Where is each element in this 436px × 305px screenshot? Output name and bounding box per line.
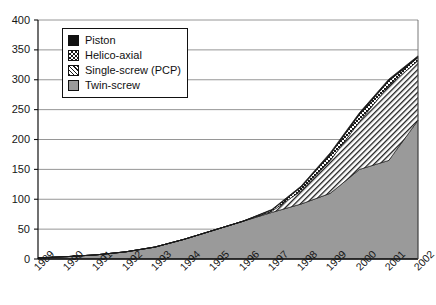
legend-item-helico-axial: Helico-axial (68, 48, 181, 63)
legend-label-twin-screw: Twin-screw (85, 80, 140, 91)
y-tick-label: 50 (0, 224, 30, 235)
y-tick-label: 150 (0, 164, 30, 175)
legend-label-piston: Piston (85, 35, 116, 46)
y-tick-label: 250 (0, 104, 30, 115)
legend-swatch-twin-screw-icon (68, 80, 79, 91)
legend-swatch-single-screw-icon (68, 65, 79, 76)
legend-label-single-screw: Single-screw (PCP) (85, 65, 181, 76)
legend-swatch-piston-icon (68, 35, 79, 46)
legend-item-piston: Piston (68, 33, 181, 48)
legend-item-twin-screw: Twin-screw (68, 78, 181, 93)
y-tick-label: 400 (0, 15, 30, 26)
y-tick-label: 300 (0, 74, 30, 85)
legend-swatch-helico-axial-icon (68, 50, 79, 61)
legend-label-helico-axial: Helico-axial (85, 50, 142, 61)
y-tick-label: 350 (0, 44, 30, 55)
chart-legend: Piston Helico-axial Single-screw (PCP) T… (62, 28, 188, 98)
y-tick-label: 0 (0, 254, 30, 265)
y-tick-label: 200 (0, 134, 30, 145)
y-tick-label: 100 (0, 194, 30, 205)
legend-item-single-screw: Single-screw (PCP) (68, 63, 181, 78)
